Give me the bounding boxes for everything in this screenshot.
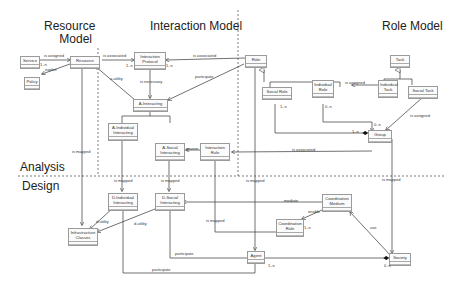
class-society[interactable]: Society bbox=[389, 253, 411, 266]
class-a-interacting[interactable]: A-Interacting bbox=[133, 99, 168, 112]
class-group[interactable]: Group bbox=[368, 130, 392, 143]
class-social-task[interactable]: Social Task bbox=[408, 86, 438, 99]
label-is-mapped: is mapped bbox=[72, 149, 90, 154]
class-d-individual-interacting[interactable]: D-Individual Interacting bbox=[108, 193, 138, 211]
label-is-mapped: is mapped bbox=[246, 178, 264, 183]
label-govern: govern bbox=[186, 146, 198, 151]
heading-interaction-model: Interaction Model bbox=[150, 20, 242, 33]
label-mult: 0..n bbox=[325, 104, 332, 109]
label-participate: participate bbox=[152, 267, 170, 272]
class-name: Social Task bbox=[409, 87, 437, 95]
edge-ainteracting-resource bbox=[95, 66, 135, 100]
class-name: Social Role bbox=[263, 88, 291, 96]
class-name: D-Individual Interacting bbox=[109, 194, 137, 207]
label-use: use bbox=[370, 225, 376, 230]
label-is-associated: is associated bbox=[292, 147, 315, 152]
class-name: Individual Task bbox=[379, 81, 397, 94]
label-is-mapped: is mapped bbox=[161, 178, 179, 183]
class-name: Individual Role bbox=[313, 81, 333, 94]
class-name: Task bbox=[391, 56, 409, 64]
class-individual-task[interactable]: Individual Task bbox=[378, 80, 398, 98]
label-mult: 0..n bbox=[384, 263, 391, 268]
class-name: D-Social Interacting bbox=[156, 194, 184, 207]
class-individual-role[interactable]: Individual Role bbox=[312, 80, 334, 98]
label-is-mapped: is mapped bbox=[114, 178, 132, 183]
class-interaction-rule[interactable]: Interaction Rule bbox=[200, 143, 230, 161]
class-name: A-Individual Interacting bbox=[109, 124, 137, 137]
heading-resource-model: Resource Model bbox=[44, 20, 92, 46]
gen-a-interacting bbox=[122, 116, 170, 123]
label-is-mapped: is mapped bbox=[206, 218, 224, 223]
label-enable: enable bbox=[308, 209, 320, 214]
class-d-social-interacting[interactable]: D-Social Interacting bbox=[155, 193, 185, 211]
class-name: Policy bbox=[25, 78, 39, 86]
edge-agent-dindiv bbox=[123, 207, 255, 273]
heading-text: Resource Model bbox=[44, 19, 95, 46]
map-rule bbox=[215, 160, 280, 232]
class-infrastructure-classes[interactable]: Infrastructure Classes bbox=[68, 228, 98, 246]
class-name: Infrastructure Classes bbox=[69, 229, 97, 242]
label-is-assigned: is assigned bbox=[44, 53, 64, 58]
class-name: A-Interacting bbox=[134, 100, 167, 108]
class-name: A-Social Interacting bbox=[156, 144, 184, 157]
label-is-mapped: is mapped bbox=[382, 177, 400, 182]
class-name: Interaction Rule bbox=[201, 144, 229, 157]
label-mediate: mediate bbox=[284, 198, 298, 203]
class-coordination-rule[interactable]: Coordination Rule bbox=[276, 219, 304, 237]
label-participate: participate bbox=[195, 74, 213, 79]
class-coordination-medium[interactable]: Coordination Medium bbox=[322, 194, 352, 212]
class-resource[interactable]: Resource bbox=[70, 56, 100, 69]
label-mult: 0..n bbox=[374, 122, 381, 127]
class-name: Coordination Rule bbox=[277, 220, 303, 233]
label-a-utility: a-utility bbox=[110, 76, 123, 81]
class-agent[interactable]: Agent bbox=[247, 251, 265, 264]
class-name: Service bbox=[21, 57, 39, 65]
class-name: Role bbox=[246, 56, 266, 64]
edge-society-cm bbox=[350, 212, 392, 257]
class-a-social-interacting[interactable]: A-Social Interacting bbox=[155, 143, 185, 161]
class-role[interactable]: Role bbox=[245, 55, 267, 68]
class-a-individual-interacting[interactable]: A-Individual Interacting bbox=[108, 123, 138, 141]
heading-role-model: Role Model bbox=[382, 20, 443, 33]
class-policy[interactable]: Policy bbox=[24, 77, 40, 90]
label-mult: 1..n bbox=[304, 225, 311, 230]
label-is-assigned: is assigned bbox=[345, 80, 365, 85]
class-name: Group bbox=[369, 131, 391, 139]
label-d-utility: d-utility bbox=[96, 219, 109, 224]
edge-role-ip bbox=[166, 58, 245, 60]
heading-analysis: Analysis bbox=[20, 161, 65, 174]
label-mult: 1..n bbox=[352, 129, 359, 134]
label-mult: 1..n bbox=[268, 263, 275, 268]
class-social-role[interactable]: Social Role bbox=[262, 87, 292, 100]
class-task[interactable]: Task bbox=[390, 55, 410, 68]
class-name: Coordination Medium bbox=[323, 195, 351, 208]
label-participate: participate bbox=[175, 251, 193, 256]
class-name: Agent bbox=[248, 252, 264, 260]
class-name: Society bbox=[390, 254, 410, 262]
label-is-necessary: is necessary bbox=[140, 79, 162, 84]
class-name: Interaction Protocol bbox=[135, 53, 165, 66]
label-is-associated: is associated bbox=[193, 53, 216, 58]
label-mult: 1..n bbox=[280, 104, 287, 109]
label-d-utility: d-utility bbox=[134, 221, 147, 226]
class-service[interactable]: Service bbox=[20, 56, 40, 69]
label-exploit: exploit bbox=[45, 67, 57, 72]
label-is-assigned: is assigned bbox=[410, 113, 430, 118]
class-interaction-protocol[interactable]: Interaction Protocol bbox=[134, 52, 166, 70]
label-is-associated: is associated bbox=[103, 53, 126, 58]
label-mult: 1..n bbox=[126, 63, 133, 68]
edge-role-ainteracting bbox=[168, 64, 244, 100]
heading-design: Design bbox=[22, 180, 59, 193]
class-name: Resource bbox=[71, 57, 99, 65]
label-mult: 1..n bbox=[166, 63, 173, 68]
